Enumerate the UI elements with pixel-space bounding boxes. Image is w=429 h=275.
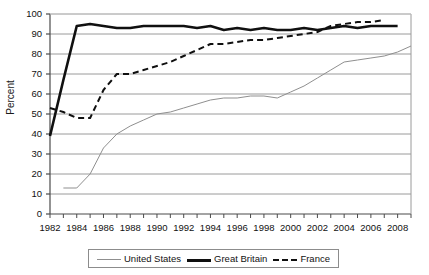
y-axis-title: Percent xyxy=(5,68,16,128)
chart-plot-area xyxy=(0,0,429,275)
y-tick-label: 40 xyxy=(16,128,42,139)
legend-swatch-united-states xyxy=(97,254,121,264)
legend-swatch-france xyxy=(273,254,297,264)
y-tick-label: 50 xyxy=(16,108,42,119)
y-tick-label: 80 xyxy=(16,48,42,59)
gridlines xyxy=(50,14,411,194)
series-line-great-britain xyxy=(50,24,398,136)
y-tick-label: 20 xyxy=(16,168,42,179)
y-tick-label: 70 xyxy=(16,68,42,79)
legend-swatch-great-britain xyxy=(187,254,211,264)
legend-label-great-britain: Great Britain xyxy=(214,253,267,264)
series-line-united-states xyxy=(63,46,411,188)
legend-label-france: France xyxy=(300,253,330,264)
axis-ticks xyxy=(46,14,411,218)
series-line-france xyxy=(50,20,384,118)
line-chart: Percent 0102030405060708090100 198219841… xyxy=(0,0,429,275)
y-tick-label: 0 xyxy=(16,208,42,219)
legend-item-france: France xyxy=(273,253,330,264)
legend-item-great-britain: Great Britain xyxy=(187,253,267,264)
data-series-group xyxy=(50,20,411,188)
chart-legend: United States Great Britain France xyxy=(88,249,339,268)
legend-label-united-states: United States xyxy=(124,253,181,264)
legend-item-united-states: United States xyxy=(97,253,181,264)
x-tick-label: 2008 xyxy=(382,222,414,233)
y-tick-label: 30 xyxy=(16,148,42,159)
y-tick-label: 100 xyxy=(16,8,42,19)
y-tick-label: 90 xyxy=(16,28,42,39)
y-tick-label: 10 xyxy=(16,188,42,199)
y-tick-label: 60 xyxy=(16,88,42,99)
